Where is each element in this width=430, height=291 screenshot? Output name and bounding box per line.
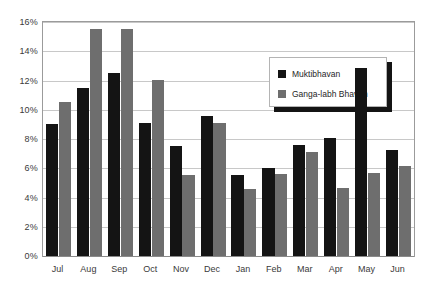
bar [293,145,305,256]
bar [59,102,71,256]
y-axis-tick-label: 8% [25,134,38,144]
bar [368,173,380,256]
bar [46,124,58,256]
x-axis-tick-label: Mar [297,264,313,274]
x-axis-tick-label: Jan [236,264,251,274]
y-axis-labels: 0%2%4%6%8%10%12%14%16% [0,21,38,257]
legend-swatch-icon-series-1 [278,90,286,98]
bar [201,116,213,256]
y-axis-tick-label: 12% [19,76,38,86]
y-axis-tick-label: 6% [25,163,38,173]
bar [231,175,243,256]
y-axis-tick-label: 4% [25,193,38,203]
y-axis-tick-label: 10% [19,105,38,115]
x-axis-tick-label: Apr [329,264,343,274]
y-axis-tick-label: 14% [19,46,38,56]
x-axis-tick-label: Nov [173,264,189,274]
bar [386,150,398,256]
bar [139,123,151,256]
bar [399,166,411,256]
x-axis-tick-label: Jun [390,264,405,274]
bar [262,168,274,256]
y-axis-tick-label: 16% [19,17,38,27]
bar [213,123,225,256]
bar [355,68,367,256]
bar [244,189,256,256]
x-axis-tick-label: Aug [80,264,96,274]
x-axis-tick-label: Oct [143,264,157,274]
legend-label: Muktibhavan [292,70,340,79]
bar [108,73,120,256]
bar [152,80,164,256]
bar [182,175,194,256]
bar [77,88,89,256]
x-axis-tick-label: May [358,264,375,274]
x-axis-tick-label: Dec [204,264,220,274]
legend-swatch-icon-series-0 [278,70,286,78]
x-axis-labels: JulAugSepOctNovDecJanFebMarAprMayJun [42,258,415,284]
x-axis-tick-label: Sep [111,264,127,274]
bar-chart: 0%2%4%6%8%10%12%14%16% Muktibhavan Ganga… [0,0,430,291]
bar [275,174,287,256]
bar [324,138,336,256]
x-axis-tick-label: Feb [266,264,282,274]
bar [306,152,318,256]
bar [121,29,133,256]
y-axis-tick-label: 2% [25,222,38,232]
x-axis-tick-label: Jul [52,264,64,274]
gridline [43,256,414,257]
chart-legend: Muktibhavan Ganga-labh Bhavan [269,57,387,107]
bar [337,188,349,256]
y-axis-tick-label: 0% [25,251,38,261]
bar [90,29,102,256]
bar [170,146,182,256]
